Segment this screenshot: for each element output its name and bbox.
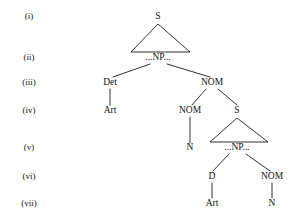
tree-node-n-s-lower: S <box>234 105 239 115</box>
tree-node-n-np-top: ...NP... <box>145 52 170 62</box>
tree-node-n-np-lower: ...NP... <box>224 142 249 152</box>
tree-node-group: S...NP...DetNOMArtNOMSN...NP...DNOMArtN <box>103 11 283 208</box>
row-label-group: (i)(ii)(iii)(iv)(v)(vi)(vii) <box>21 11 37 208</box>
abbreviation-triangle-tri-s-lower <box>210 118 268 142</box>
tree-node-n-art-2: Art <box>206 198 219 208</box>
tree-branch-e-np2-d <box>213 154 229 171</box>
tree-node-n-nom-3: NOM <box>261 171 284 181</box>
tree-branch-e-np-det <box>113 64 150 77</box>
row-label-row-i: (i) <box>25 11 34 21</box>
tree-branch-e-np-nom1 <box>167 64 210 77</box>
tree-canvas: S...NP...DetNOMArtNOMSN...NP...DNOMArtN … <box>0 0 304 221</box>
tree-edge-group <box>110 64 272 198</box>
tree-branch-e-nom1-s <box>218 89 237 105</box>
tree-node-n-nom-2: NOM <box>179 105 202 115</box>
tree-node-n-n-2: N <box>269 198 276 208</box>
row-label-row-v: (v) <box>24 142 35 152</box>
row-label-row-iii: (iii) <box>22 77 36 87</box>
tree-node-n-det: Det <box>103 77 117 87</box>
row-label-row-iv: (iv) <box>23 105 36 115</box>
row-label-row-vii: (vii) <box>21 198 37 208</box>
tree-branch-e-nom1-nom2 <box>192 89 206 105</box>
row-label-row-ii: (ii) <box>24 52 35 62</box>
tree-branch-e-np2-nom3 <box>246 154 270 171</box>
abbreviation-triangle-tri-s-top <box>131 24 190 52</box>
syntax-tree-figure: S...NP...DetNOMArtNOMSN...NP...DNOMArtN … <box>0 0 304 221</box>
tree-triangle-group <box>131 24 268 142</box>
tree-node-n-n-1: N <box>187 142 194 152</box>
row-label-row-vi: (vi) <box>23 171 36 181</box>
tree-node-n-nom-1: NOM <box>201 77 224 87</box>
tree-node-n-s-top: S <box>155 11 160 21</box>
tree-node-n-d: D <box>209 171 216 181</box>
tree-node-n-art-1: Art <box>104 105 117 115</box>
